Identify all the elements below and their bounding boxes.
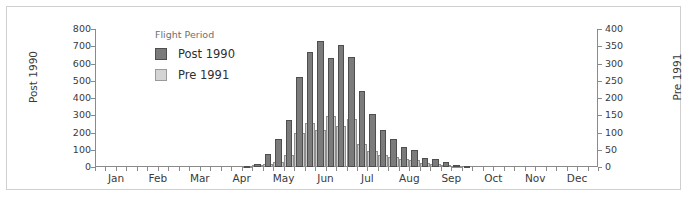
y-tick-label-left: 100	[51, 145, 91, 155]
x-tick	[588, 167, 589, 171]
x-tick	[284, 167, 285, 171]
bar-post	[401, 147, 407, 167]
x-tick	[273, 167, 274, 171]
y-tick-label-right: 350	[605, 41, 645, 51]
legend-label-pre-1991: Pre 1991	[178, 68, 229, 82]
x-tick	[535, 167, 536, 171]
bar-post	[296, 77, 302, 167]
x-tick	[399, 167, 400, 171]
x-axis-month-label: Feb	[135, 173, 181, 184]
x-axis-month-label: Apr	[219, 173, 265, 184]
x-tick	[221, 167, 222, 171]
chart-frame: Post 1990 Pre 1991 010020030040050060070…	[6, 6, 681, 190]
y-axis-label-right: Pre 1991	[671, 42, 683, 112]
bar-post	[453, 165, 459, 167]
x-tick	[357, 167, 358, 171]
y-tick-right	[598, 29, 602, 30]
y-tick-right	[598, 98, 602, 99]
y-tick-label-right: 50	[605, 145, 645, 155]
bar-post	[338, 45, 344, 167]
x-tick	[367, 167, 368, 171]
legend-title: Flight Period	[155, 29, 235, 40]
x-tick	[315, 167, 316, 171]
y-tick-label-right: 150	[605, 110, 645, 120]
bar-post	[443, 162, 449, 167]
x-tick	[420, 167, 421, 171]
y-axis-left-line	[95, 29, 96, 167]
y-tick-label-right: 100	[605, 128, 645, 138]
x-tick	[305, 167, 306, 171]
bar-post	[244, 166, 250, 168]
x-tick	[336, 167, 337, 171]
y-tick-label-right: 300	[605, 59, 645, 69]
x-tick	[147, 167, 148, 171]
x-tick	[105, 167, 106, 171]
x-tick	[210, 167, 211, 171]
x-tick	[200, 167, 201, 171]
y-tick-label-left: 600	[51, 59, 91, 69]
x-tick	[179, 167, 180, 171]
x-tick	[168, 167, 169, 171]
x-axis-month-label: Jun	[303, 173, 349, 184]
x-tick	[462, 167, 463, 171]
y-tick-label-right: 400	[605, 24, 645, 34]
x-tick	[577, 167, 578, 171]
x-tick	[326, 167, 327, 171]
legend-label-post-1990: Post 1990	[178, 47, 235, 61]
y-tick-left	[91, 81, 95, 82]
x-axis-month-label: Sep	[428, 173, 474, 184]
x-tick	[231, 167, 232, 171]
bar-post	[380, 130, 386, 167]
y-tick-label-left: 400	[51, 93, 91, 103]
y-tick-right	[598, 81, 602, 82]
legend-item-pre-1991: Pre 1991	[155, 68, 235, 82]
x-tick	[116, 167, 117, 171]
x-tick	[598, 167, 599, 171]
x-tick	[378, 167, 379, 171]
x-axis-month-label: Dec	[554, 173, 600, 184]
y-tick-right	[598, 150, 602, 151]
chart-legend: Flight Period Post 1990 Pre 1991	[155, 29, 235, 89]
bar-post	[265, 154, 271, 167]
x-tick	[546, 167, 547, 171]
bar-post	[422, 158, 428, 167]
x-tick	[556, 167, 557, 171]
x-tick	[263, 167, 264, 171]
x-tick	[95, 167, 96, 171]
legend-item-post-1990: Post 1990	[155, 47, 235, 61]
x-axis-month-label: Jul	[344, 173, 390, 184]
bar-post	[369, 114, 375, 167]
y-tick-left	[91, 150, 95, 151]
x-tick	[525, 167, 526, 171]
x-axis-month-label: Mar	[177, 173, 223, 184]
y-tick-label-left: 800	[51, 24, 91, 34]
bar-post	[307, 52, 313, 167]
y-tick-label-left: 300	[51, 110, 91, 120]
bar-post	[348, 57, 354, 167]
bar-post	[328, 58, 334, 167]
y-tick-label-left: 200	[51, 128, 91, 138]
y-tick-left	[91, 133, 95, 134]
x-axis-month-label: Jan	[93, 173, 139, 184]
bar-post	[464, 166, 470, 168]
bar-post	[432, 159, 438, 167]
y-tick-left	[91, 98, 95, 99]
x-tick	[430, 167, 431, 171]
x-tick	[126, 167, 127, 171]
y-tick-right	[598, 64, 602, 65]
y-tick-right	[598, 133, 602, 134]
y-tick-label-right: 250	[605, 76, 645, 86]
x-axis-month-label: Aug	[386, 173, 432, 184]
x-tick	[294, 167, 295, 171]
x-tick	[409, 167, 410, 171]
x-axis-month-label: Oct	[470, 173, 516, 184]
y-tick-right	[598, 46, 602, 47]
bar-post	[317, 41, 323, 167]
bar-post	[390, 139, 396, 167]
y-tick-left	[91, 46, 95, 47]
bar-post	[411, 150, 417, 167]
x-tick	[493, 167, 494, 171]
x-tick	[504, 167, 505, 171]
x-tick	[158, 167, 159, 171]
x-tick	[441, 167, 442, 171]
